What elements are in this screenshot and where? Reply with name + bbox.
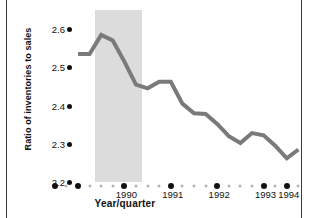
x-axis-quarter-dot-icon <box>158 185 161 188</box>
x-axis-quarter-dot-icon <box>146 185 149 188</box>
x-axis-quarter-dot-icon <box>297 185 300 188</box>
x-axis-year-dot-icon <box>75 183 81 189</box>
x-axis-quarter-dot-icon <box>239 185 242 188</box>
x-axis-quarter-dot-icon <box>204 185 207 188</box>
x-axis-quarter-dot-icon <box>251 185 254 188</box>
x-axis-quarter-dot-icon <box>111 185 114 188</box>
x-axis-tick-label: 1994 <box>278 189 299 200</box>
inventories-to-sales-line <box>72 10 298 182</box>
y-axis-tick: 2.4 <box>30 100 72 112</box>
x-axis-quarter-dot-icon <box>193 185 196 188</box>
x-axis-quarter-dot-icon <box>227 185 230 188</box>
x-axis-tick-label: 1992 <box>209 189 230 200</box>
y-axis-tick: 2.5 <box>30 61 72 73</box>
x-axis-quarter-dot-icon <box>181 185 184 188</box>
y-axis-tick: 2.3 <box>30 138 72 150</box>
y-axis-tick-label: 2.3 <box>52 139 65 150</box>
y-axis-tick-label: 2.4 <box>52 101 65 112</box>
y-axis-tick-label: 2.5 <box>52 62 65 73</box>
chart-figure: Ratio of inventories to sales 2.62.52.42… <box>0 0 309 218</box>
x-axis-title: Year/quarter <box>60 198 190 209</box>
y-axis-tick: 2.6 <box>30 23 72 35</box>
x-axis-year-dot-icon <box>52 183 58 189</box>
x-axis-quarter-dot-icon <box>100 185 103 188</box>
series-line-path <box>78 35 298 158</box>
x-axis-quarter-dot-icon <box>274 185 277 188</box>
x-axis-quarter-dot-icon <box>88 185 91 188</box>
x-axis-quarter-dot-icon <box>65 185 68 188</box>
x-axis-tick-label: 1993 <box>255 189 276 200</box>
y-axis-tick-label: 2.6 <box>52 24 65 35</box>
x-axis-quarter-dot-icon <box>135 185 138 188</box>
plot-area <box>72 10 298 182</box>
